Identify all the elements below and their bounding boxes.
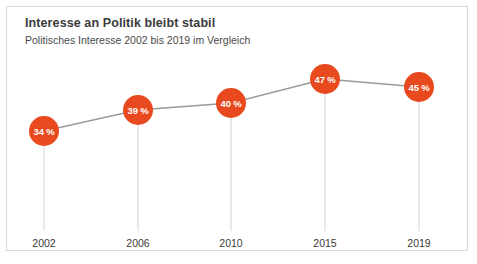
x-axis-label-2019: 2019 (407, 237, 430, 249)
data-point-label: 45 % (409, 82, 430, 93)
x-axis-label-2002: 2002 (32, 237, 55, 249)
data-point-2006[interactable]: 39 % (123, 95, 153, 125)
x-axis-label-2006: 2006 (126, 237, 149, 249)
chart-svg (7, 7, 467, 250)
data-point-2010[interactable]: 40 % (216, 88, 246, 118)
x-axis-label-2015: 2015 (313, 237, 336, 249)
chart-screenshot: Interesse an Politik bleibt stabil Polit… (0, 0, 477, 264)
data-point-label: 34 % (34, 126, 55, 137)
plot-area: 34 % 39 % 40 % 47 % 45 % 2002 2006 2010 … (7, 7, 467, 250)
data-point-2002[interactable]: 34 % (29, 116, 59, 146)
data-point-label: 39 % (128, 105, 149, 116)
data-point-2019[interactable]: 45 % (404, 72, 434, 102)
data-point-2015[interactable]: 47 % (310, 64, 340, 94)
data-point-label: 40 % (221, 98, 242, 109)
data-point-label: 47 % (315, 74, 336, 85)
chart-card: Interesse an Politik bleibt stabil Polit… (6, 6, 468, 251)
x-axis-label-2010: 2010 (219, 237, 242, 249)
